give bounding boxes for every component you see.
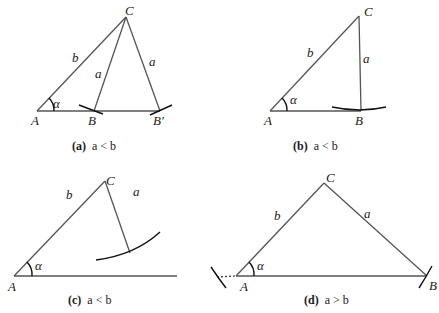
- vertex-a-label: A: [30, 113, 39, 128]
- figure-c: α A C b a (c) a < b: [7, 173, 177, 307]
- side-a-line: [105, 181, 130, 253]
- side-b-line: [37, 17, 126, 111]
- side-a-label: a: [364, 206, 371, 221]
- vertex-c-label: C: [364, 4, 373, 19]
- arc-mark-b: [332, 107, 386, 110]
- caption-c: (c) a < b: [68, 293, 111, 307]
- side-b-line: [270, 16, 359, 111]
- side-a-line: [324, 183, 427, 276]
- vertex-c-label: C: [106, 173, 115, 188]
- vertex-b-prime-label: B′: [153, 113, 164, 128]
- side-a-label-1: a: [95, 66, 102, 81]
- side-b-label: b: [307, 45, 314, 60]
- vertex-a-label: A: [263, 113, 272, 128]
- angle-alpha-arc: [27, 262, 32, 276]
- angle-alpha-arc: [249, 262, 254, 276]
- figure-d: α A B C b a (d) a > b: [211, 170, 437, 307]
- arc-mark-left: [211, 267, 226, 288]
- angle-alpha-label: α: [257, 258, 265, 273]
- side-b-label: b: [274, 208, 281, 223]
- vertex-c-label: C: [125, 3, 134, 18]
- side-a-line: [359, 16, 361, 111]
- angle-alpha-label: α: [53, 96, 61, 111]
- ambiguous-case-diagrams: α A B B′ C b a a (a) a < b α A B C b a (…: [0, 0, 439, 313]
- angle-alpha-label: α: [35, 258, 43, 273]
- vertex-a-label: A: [7, 279, 16, 294]
- figure-a: α A B B′ C b a a (a) a < b: [30, 3, 172, 153]
- caption-d: (d) a > b: [304, 293, 349, 307]
- side-b-label: b: [72, 50, 79, 65]
- vertex-a-label: A: [239, 279, 248, 294]
- figure-b: α A B C b a (b) a < b: [263, 4, 386, 153]
- caption-b: (b) a < b: [293, 139, 338, 153]
- caption-a: (a) a < b: [72, 139, 116, 153]
- side-a-label: a: [363, 51, 370, 66]
- angle-alpha-label: α: [290, 92, 298, 107]
- vertex-b-label: B: [88, 113, 96, 128]
- side-a-to-b-line: [94, 17, 126, 111]
- extension-dashed-line: [217, 276, 235, 277]
- side-a-label-2: a: [149, 54, 156, 69]
- side-b-label: b: [66, 187, 73, 202]
- vertex-c-label: C: [326, 170, 335, 185]
- side-a-label: a: [133, 184, 140, 199]
- angle-alpha-arc: [282, 98, 287, 111]
- vertex-b-label: B: [355, 113, 363, 128]
- vertex-b-label: B: [429, 278, 437, 293]
